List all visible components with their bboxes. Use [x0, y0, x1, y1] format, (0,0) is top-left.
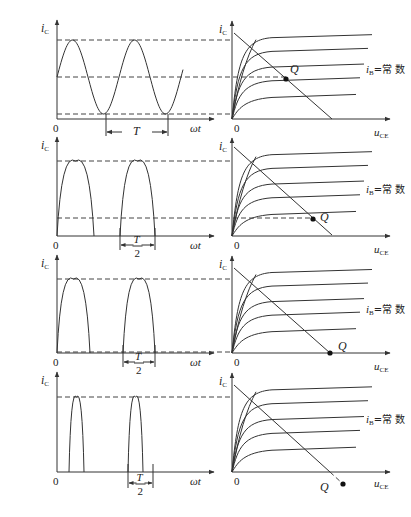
ic-characteristic-curve-c-2: [232, 283, 368, 353]
ic-label-right-c: iC: [219, 258, 227, 272]
ic-label-left-b: iC: [41, 139, 49, 153]
q-label-d: Q: [320, 481, 329, 493]
uce-label-c: uCE: [374, 361, 388, 374]
q-label-a: Q: [290, 63, 299, 75]
ic-characteristic-curve-d-3: [232, 417, 364, 472]
wt-label-d: ωt: [190, 476, 201, 487]
q-label-c: Q: [338, 340, 347, 352]
ic-label-left-a: iC: [41, 22, 49, 36]
period-label-T-d: T: [137, 472, 143, 483]
ic-pulse-c-1: [57, 278, 90, 353]
period-label-2-c: 2: [136, 365, 142, 376]
ic-characteristic-curve-b-4: [232, 195, 360, 236]
ic-characteristic-curve-b-5: [232, 211, 356, 236]
origin-left-a: 0: [53, 123, 59, 134]
origin-right-d: 0: [234, 476, 240, 487]
ic-characteristic-curve-d-1: [232, 387, 372, 472]
load-line-c: [234, 268, 330, 353]
ic-characteristic-curve-a-4: [232, 78, 360, 119]
q-label-b: Q: [320, 211, 329, 223]
ic-pulse-b-1: [57, 160, 94, 236]
ic-characteristic-curve-b-2: [232, 165, 368, 236]
ib-constant-label-a: iB=常 数: [366, 64, 405, 77]
ic-characteristic-curve-a-5: [232, 94, 356, 119]
q-point-d: [340, 481, 345, 486]
ic-pulse-b-2: [120, 160, 155, 236]
load-line-extension-d: [330, 472, 343, 484]
wt-label-c: ωt: [190, 357, 201, 368]
ic-characteristic-curve-b-3: [232, 181, 364, 236]
uce-label-d: uCE: [374, 478, 388, 491]
ic-pulse-d-2: [128, 396, 143, 472]
period-label-T-b: T: [134, 234, 140, 245]
ic-characteristic-curve-a-2: [232, 48, 368, 119]
load-line-b: [234, 147, 332, 235]
q-point-a: [283, 76, 288, 81]
period-label-2-b: 2: [135, 248, 141, 259]
origin-left-b: 0: [53, 240, 59, 251]
period-label-T-c: T: [135, 351, 141, 362]
wt-label-a: ωt: [190, 123, 201, 134]
ic-characteristic-curve-d-5: [232, 447, 356, 472]
load-line-d: [234, 385, 330, 472]
origin-right-a: 0: [234, 123, 240, 134]
ic-label-left-d: iC: [41, 374, 49, 388]
ic-characteristic-curve-d-4: [232, 430, 360, 472]
uce-label-a: uCE: [374, 127, 388, 140]
ib-constant-label-c: iB=常 数: [366, 304, 405, 317]
ic-characteristic-curve-c-1: [232, 269, 372, 353]
ic-label-left-c: iC: [41, 257, 49, 271]
period-label-2-d: 2: [138, 486, 144, 497]
ic-characteristic-curve-d-2: [232, 401, 368, 472]
ic-label-right-d: iC: [219, 375, 227, 389]
origin-right-c: 0: [234, 357, 240, 368]
wt-label-b: ωt: [190, 240, 201, 251]
origin-left-d: 0: [53, 476, 59, 487]
origin-right-b: 0: [234, 240, 240, 251]
load-line-a: [234, 33, 332, 119]
uce-label-b: uCE: [374, 244, 388, 257]
ic-pulse-c-2: [123, 278, 155, 353]
ic-label-right-a: iC: [219, 23, 227, 37]
amplifier-class-diagram: [0, 0, 411, 517]
ic-pulse-d-1: [69, 396, 84, 472]
q-point-c: [327, 350, 332, 355]
ib-constant-label-d: iB=常 数: [366, 414, 405, 427]
q-point-b: [310, 216, 315, 221]
ib-constant-label-b: iB=常 数: [366, 184, 405, 197]
ic-label-right-b: iC: [219, 140, 227, 154]
origin-left-c: 0: [53, 357, 59, 368]
period-label-a: T: [133, 125, 140, 137]
